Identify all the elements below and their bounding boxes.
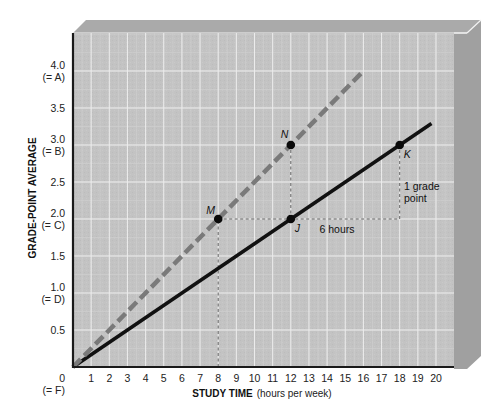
point-n — [287, 141, 296, 150]
y-tick-grade-label: (= C) — [41, 219, 65, 231]
x-tick-label: 18 — [394, 372, 406, 384]
box-top-face — [73, 20, 481, 33]
point-label-m: M — [206, 204, 215, 216]
x-tick-label: 5 — [161, 372, 167, 384]
point-j — [287, 215, 296, 224]
annotation-6-hours: 6 hours — [319, 223, 354, 235]
x-tick-label: 11 — [267, 372, 278, 384]
x-tick-label: 8 — [215, 372, 221, 384]
x-tick-label: 3 — [125, 372, 131, 384]
x-tick-labels: 1234567891011121314151617181920 — [88, 372, 442, 384]
y-tick-label: 0 — [59, 372, 65, 384]
x-tick-label: 10 — [249, 372, 261, 384]
chart: MNJK 1234567891011121314151617181920 0(=… — [0, 0, 495, 416]
y-tick-label: 3.5 — [50, 102, 65, 114]
y-tick-label: 2.5 — [50, 176, 65, 188]
box-right-face — [454, 20, 481, 369]
x-tick-label: 1 — [88, 372, 94, 384]
x-tick-label: 4 — [143, 372, 149, 384]
x-axis-title: STUDY TIME(hours per week) — [192, 388, 331, 399]
y-tick-label: 2.0 — [50, 207, 65, 219]
y-axis-title: GRADE-POINT AVERAGE — [27, 137, 38, 258]
x-tick-label: 9 — [233, 372, 239, 384]
point-label-k: K — [404, 148, 412, 160]
x-tick-label: 19 — [412, 372, 424, 384]
y-tick-label: 1.0 — [50, 281, 65, 293]
x-tick-label: 20 — [430, 372, 442, 384]
x-tick-label: 6 — [179, 372, 185, 384]
point-m — [214, 215, 223, 224]
x-tick-label: 16 — [358, 372, 370, 384]
point-label-n: N — [281, 128, 289, 140]
y-tick-label: 0.5 — [50, 324, 65, 336]
y-tick-grade-label: (= D) — [41, 293, 65, 305]
x-tick-label: 13 — [303, 372, 315, 384]
y-tick-label: 3.0 — [50, 133, 65, 145]
y-tick-grade-label: (= F) — [43, 384, 65, 396]
y-tick-labels: 0(= F)0.51.0(= D)1.52.0(= C)2.53.0(= B)3… — [41, 59, 65, 396]
x-tick-label: 14 — [321, 372, 333, 384]
y-tick-label: 1.5 — [50, 250, 65, 262]
y-tick-label: 4.0 — [50, 59, 65, 71]
x-tick-label: 2 — [106, 372, 112, 384]
point-label-j: J — [294, 222, 301, 234]
y-tick-grade-label: (= A) — [43, 71, 65, 83]
x-tick-label: 17 — [376, 372, 388, 384]
x-tick-label: 12 — [285, 372, 297, 384]
x-tick-label: 7 — [197, 372, 203, 384]
x-tick-label: 15 — [339, 372, 351, 384]
y-tick-grade-label: (= B) — [42, 145, 65, 157]
